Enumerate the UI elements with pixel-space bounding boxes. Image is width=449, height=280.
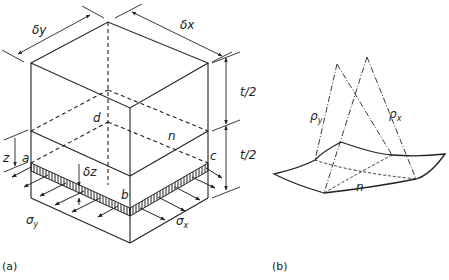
sigma-y-arrows [12, 167, 118, 217]
label-a: a [22, 151, 29, 165]
plate-element-diagram: δy δx t/2 t/2 d n z a δz b c σy σx (a) ρ… [0, 0, 449, 280]
label-n: n [168, 129, 176, 143]
label-half-t-top: t/2 [240, 85, 256, 99]
label-z: z [2, 151, 10, 165]
curved-surface [274, 57, 445, 193]
top-face [31, 22, 208, 108]
label-sigma-y: σy [26, 213, 39, 229]
label-dx: δx [180, 18, 195, 32]
label-rho-y: ρy [310, 109, 323, 125]
label-c: c [210, 149, 217, 163]
label-rho-x: ρx [389, 107, 402, 123]
caption-b: (b) [272, 260, 288, 273]
label-dy: δy [32, 23, 47, 37]
label-dz: δz [83, 165, 97, 179]
label-b: b [121, 188, 129, 202]
caption-a: (a) [2, 260, 17, 273]
label-d: d [93, 111, 101, 125]
label-n-b: n [356, 180, 364, 194]
label-sigma-x: σx [176, 214, 189, 230]
label-half-t-bottom: t/2 [240, 148, 256, 162]
sigma-x-arrows [140, 168, 222, 220]
